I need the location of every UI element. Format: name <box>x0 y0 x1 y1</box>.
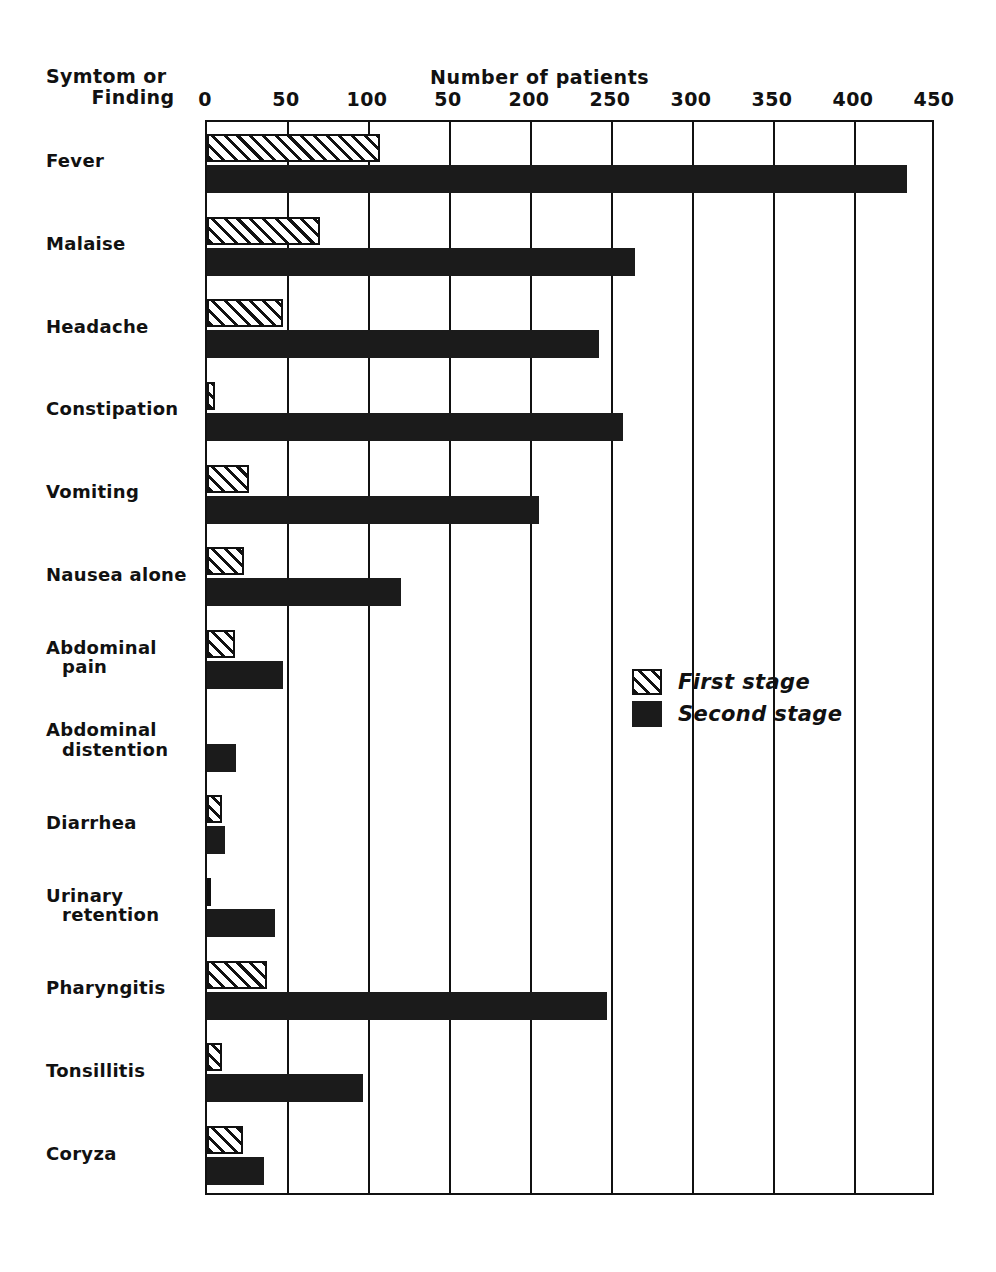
legend-label-first-stage: First stage <box>678 670 810 694</box>
legend-label-second-stage: Second stage <box>678 702 842 726</box>
y-axis-title: Symtom or Finding <box>46 66 206 109</box>
bar-second-stage <box>207 578 401 606</box>
x-tick-label-2: 100 <box>346 88 387 110</box>
bar-first-stage <box>207 547 244 575</box>
y-axis-title-line1: Symtom or <box>46 66 206 87</box>
bar-second-stage <box>207 496 539 524</box>
category-label-line: pain <box>46 658 198 678</box>
category-label-11: Tonsillitis <box>46 1061 198 1081</box>
bar-first-stage <box>207 795 222 823</box>
category-label-7: Abdominaldistention <box>46 720 198 760</box>
category-label-6: Abdominalpain <box>46 638 198 678</box>
category-label-line: Diarrhea <box>46 812 137 833</box>
category-label-9: Urinaryretention <box>46 886 198 926</box>
x-tick-label-3: 50 <box>434 88 461 110</box>
y-axis-title-line2: Finding <box>46 87 206 108</box>
gridline-150 <box>449 122 451 1193</box>
category-label-line: Vomiting <box>46 481 139 502</box>
x-tick-label-5: 250 <box>589 88 630 110</box>
category-label-line: Urinary <box>46 885 123 906</box>
category-label-line: Fever <box>46 150 104 171</box>
x-tick-label-1: 50 <box>272 88 299 110</box>
bar-first-stage <box>207 878 211 906</box>
x-axis-title: Number of patients <box>430 66 649 88</box>
bar-first-stage <box>207 961 267 989</box>
category-label-5: Nausea alone <box>46 565 198 585</box>
gridline-350 <box>773 122 775 1193</box>
bar-second-stage <box>207 744 236 772</box>
bar-second-stage <box>207 248 635 276</box>
category-label-line: Headache <box>46 316 149 337</box>
bar-first-stage <box>207 217 320 245</box>
legend: First stage Second stage <box>632 666 862 730</box>
x-tick-label-6: 300 <box>670 88 711 110</box>
bar-first-stage <box>207 1126 243 1154</box>
bar-second-stage <box>207 1157 264 1185</box>
gridline-50 <box>287 122 289 1193</box>
category-label-line: Tonsillitis <box>46 1060 145 1081</box>
category-label-line: Abdominal <box>46 719 157 740</box>
category-label-line: Pharyngitis <box>46 977 165 998</box>
gridline-250 <box>611 122 613 1193</box>
legend-item-first-stage: First stage <box>632 666 862 698</box>
bar-first-stage <box>207 382 215 410</box>
bar-first-stage <box>207 1043 222 1071</box>
gridline-200 <box>530 122 532 1193</box>
bar-second-stage <box>207 909 275 937</box>
bar-second-stage <box>207 330 599 358</box>
bar-second-stage <box>207 1074 363 1102</box>
category-label-12: Coryza <box>46 1144 198 1164</box>
bar-second-stage <box>207 165 907 193</box>
category-label-line: distention <box>46 740 198 760</box>
x-tick-label-9: 450 <box>913 88 954 110</box>
x-tick-label-4: 200 <box>508 88 549 110</box>
category-label-line: Abdominal <box>46 637 157 658</box>
bar-second-stage <box>207 826 225 854</box>
x-tick-label-8: 400 <box>832 88 873 110</box>
category-label-1: Malaise <box>46 234 198 254</box>
bar-second-stage <box>207 661 283 689</box>
gridline-400 <box>854 122 856 1193</box>
bar-chart: Symtom or Finding Number of patients 050… <box>0 0 996 1272</box>
category-label-2: Headache <box>46 317 198 337</box>
legend-item-second-stage: Second stage <box>632 698 862 730</box>
bar-first-stage <box>207 134 380 162</box>
category-label-10: Pharyngitis <box>46 978 198 998</box>
plot-area: First stage Second stage <box>205 120 934 1195</box>
legend-swatch-solid-icon <box>632 701 662 727</box>
category-label-line: retention <box>46 906 198 926</box>
category-label-4: Vomiting <box>46 482 198 502</box>
bar-second-stage <box>207 413 623 441</box>
category-label-line: Malaise <box>46 233 126 254</box>
category-label-line: Constipation <box>46 399 178 420</box>
gridline-100 <box>368 122 370 1193</box>
category-label-line: Nausea alone <box>46 564 187 585</box>
category-label-8: Diarrhea <box>46 813 198 833</box>
x-tick-label-7: 350 <box>751 88 792 110</box>
gridline-300 <box>692 122 694 1193</box>
x-tick-label-0: 0 <box>198 88 212 110</box>
bar-second-stage <box>207 992 607 1020</box>
bar-first-stage <box>207 465 249 493</box>
bar-first-stage <box>207 630 235 658</box>
category-label-3: Constipation <box>46 400 198 420</box>
category-label-0: Fever <box>46 151 198 171</box>
category-label-line: Coryza <box>46 1143 117 1164</box>
bar-first-stage <box>207 299 283 327</box>
legend-swatch-hatched-icon <box>632 669 662 695</box>
